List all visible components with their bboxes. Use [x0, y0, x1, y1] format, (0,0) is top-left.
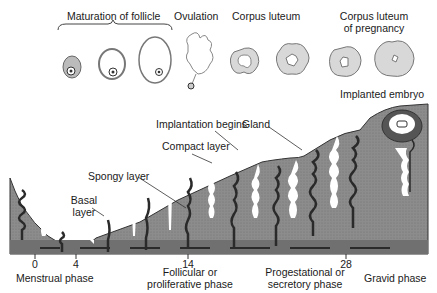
progestational-line2: secretory phase — [255, 278, 355, 290]
tick-0: 0 — [25, 258, 45, 270]
follicle-stage-2-icon — [99, 49, 125, 79]
corpus-luteum-pregnancy-line2: of pregnancy — [332, 22, 416, 34]
corpus-luteum-label: Corpus luteum — [232, 10, 300, 22]
gravid-phase-label: Gravid phase — [364, 272, 426, 284]
follicle-stage-1-icon — [63, 56, 81, 78]
tick-4: 4 — [66, 258, 86, 270]
menstrual-phase-label: Menstrual phase — [16, 272, 94, 284]
basal-layer-line1: Basal — [64, 194, 104, 206]
implantation-begins-label: Implantation begins — [156, 118, 247, 130]
implanted-embryo-label: Implanted embryo — [340, 88, 424, 100]
corpus-luteum-pregnancy-late-icon — [375, 41, 414, 77]
follicular-phase-label: Follicular or proliferative phase — [140, 266, 240, 290]
implanted-embryo-icon — [382, 110, 422, 142]
corpus-luteum-early-icon — [230, 48, 258, 74]
progestational-phase-label: Progestational or secretory phase — [255, 266, 355, 290]
compact-layer-label: Compact layer — [162, 140, 230, 152]
corpus-luteum-mature-icon — [276, 44, 309, 75]
follicle-stage-3-icon — [139, 37, 171, 83]
basal-layer-line2: layer — [64, 206, 104, 218]
corpus-luteum-pregnancy-line1: Corpus luteum — [332, 10, 416, 22]
basal-layer-label: Basal layer — [64, 194, 104, 218]
corpus-luteum-pregnancy-label: Corpus luteum of pregnancy — [332, 10, 416, 34]
spongy-layer-label: Spongy layer — [88, 170, 149, 182]
corpus-luteum-pregnancy-early-icon — [330, 47, 362, 77]
ovulation-label: Ovulation — [174, 10, 218, 22]
follicular-line2: proliferative phase — [140, 278, 240, 290]
follicular-line1: Follicular or — [140, 266, 240, 278]
menstrual-cycle-diagram: Maturation of follicle Ovulation Corpus … — [0, 0, 437, 293]
maturation-of-follicle-label: Maturation of follicle — [67, 10, 160, 22]
progestational-line1: Progestational or — [255, 266, 355, 278]
ruptured-follicle-icon — [186, 33, 213, 89]
gland-label: Gland — [242, 118, 270, 130]
